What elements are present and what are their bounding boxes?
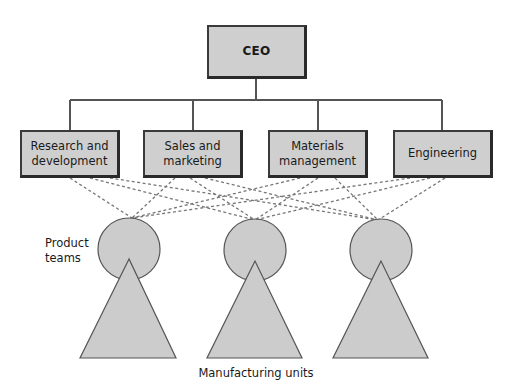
hierarchy-connectors: [70, 78, 442, 130]
department-box-engineering: Engineering: [393, 130, 493, 178]
department-label: Sales and marketing: [163, 139, 222, 169]
matrix-dashed-lines: [70, 178, 445, 220]
ceo-label: CEO: [242, 44, 270, 59]
department-box-research-development: Research and development: [20, 130, 120, 178]
department-box-materials-management: Materials management: [268, 130, 368, 178]
manufacturing-units-label: Manufacturing units: [0, 366, 512, 381]
product-teams-label: Product teams: [45, 236, 89, 266]
manufacturing-units: [80, 259, 428, 358]
department-label: Research and development: [30, 139, 108, 169]
department-box-sales-marketing: Sales and marketing: [143, 130, 243, 178]
department-label: Engineering: [408, 146, 477, 161]
manufacturing-unit-triangle-2: [207, 261, 302, 358]
department-label: Materials management: [279, 139, 356, 169]
ceo-box: CEO: [207, 25, 307, 79]
manufacturing-unit-triangle-1: [80, 259, 176, 358]
manufacturing-unit-triangle-3: [333, 261, 428, 358]
